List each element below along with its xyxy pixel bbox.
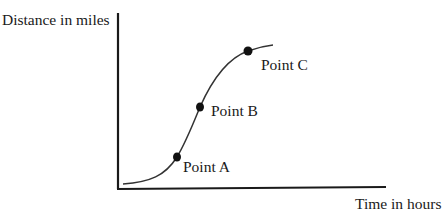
point-b-marker — [196, 103, 204, 112]
y-axis-label: Distance in miles — [2, 12, 110, 28]
point-c-marker — [244, 47, 253, 56]
point-a-marker — [173, 153, 181, 162]
x-axis-label: Time in hours — [355, 196, 441, 212]
point-c-label: Point C — [261, 57, 308, 73]
point-a-label: Point A — [183, 159, 230, 175]
point-b-label: Point B — [211, 103, 258, 119]
x-axis — [117, 187, 386, 189]
distance-time-graph: Distance in miles Time in hours Point A … — [0, 0, 445, 213]
